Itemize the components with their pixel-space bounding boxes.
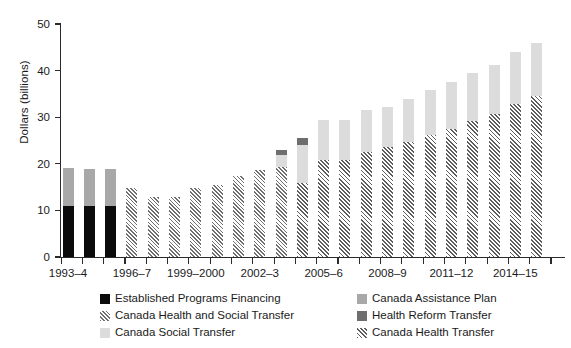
bar-segment-epf	[84, 206, 95, 257]
legend-label: Health Reform Transfer	[372, 308, 492, 323]
legend-swatch-chst-icon	[100, 311, 110, 321]
bar-segment-cht	[361, 152, 372, 257]
legend-label: Canada Health and Social Transfer	[115, 308, 294, 323]
bar-segment-cst	[382, 107, 393, 147]
bar-segment-cst	[510, 52, 521, 104]
bar-segment-cst	[318, 120, 329, 159]
bar-segment-cht	[446, 129, 457, 257]
bar-segment-chst	[233, 176, 244, 257]
legend-label: Canada Social Transfer	[115, 325, 235, 340]
bar-segment-chst	[190, 188, 201, 257]
bar-segment-chst	[212, 185, 223, 257]
legend-label: Canada Health Transfer	[372, 325, 494, 340]
bar-segment-chst	[148, 197, 159, 257]
bar-segment-cap	[84, 169, 95, 206]
bar-segment-cst	[489, 65, 500, 115]
bar-segment-cht	[531, 96, 542, 257]
bar-segment-hrt	[297, 138, 308, 145]
legend-swatch-epf-icon	[100, 294, 110, 304]
bar-segment-cst	[467, 73, 478, 121]
chart-legend: Established Programs FinancingCanada Hea…	[0, 291, 571, 348]
legend-swatch-cst-icon	[100, 328, 110, 338]
chart-figure: Dollars (billions) 01020304050 1993–4199…	[0, 0, 571, 348]
legend-swatch-cap-icon	[357, 294, 367, 304]
bar-segment-hrt	[276, 150, 287, 155]
bar-segment-cst	[339, 120, 350, 160]
bar-segment-cst	[425, 90, 436, 135]
bar-segment-chst	[169, 197, 180, 257]
bar-segment-cst	[531, 43, 542, 97]
legend-label: Canada Assistance Plan	[372, 291, 497, 306]
bar-segment-epf	[63, 206, 74, 257]
bar-segment-cht	[510, 104, 521, 257]
bar-segment-cht	[489, 114, 500, 257]
bar-segment-cht	[339, 160, 350, 257]
bar-segment-cht	[403, 142, 414, 257]
legend-swatch-cht-icon	[357, 328, 367, 338]
bar-segment-cht	[382, 147, 393, 257]
bar-segment-chst	[276, 167, 287, 257]
bar-segment-cht	[318, 160, 329, 257]
legend-label: Established Programs Financing	[115, 291, 281, 306]
bar-segment-cht	[425, 135, 436, 257]
bar-segment-chst	[126, 188, 137, 257]
bar-segment-cst	[297, 145, 308, 183]
bar-segment-cht	[467, 121, 478, 257]
bar-segment-cst	[403, 99, 414, 142]
bar-segment-epf	[105, 206, 116, 257]
legend-swatch-hrt-icon	[357, 311, 367, 321]
bar-segment-cht	[297, 183, 308, 257]
bar-segment-cap	[105, 169, 116, 206]
bar-segment-chst	[254, 170, 265, 257]
bar-segment-cst	[276, 155, 287, 167]
bar-segment-cap	[63, 168, 74, 205]
bar-segment-cst	[446, 82, 457, 129]
bar-segment-cst	[361, 110, 372, 152]
